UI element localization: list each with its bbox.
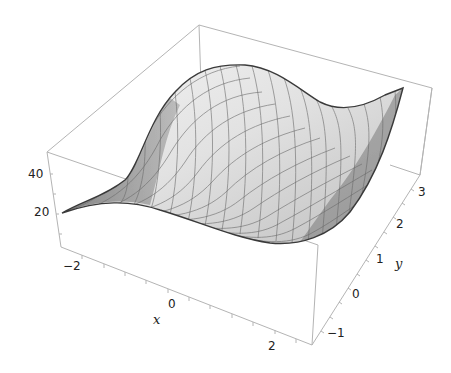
z-tick-label: 20 (34, 205, 49, 219)
y-tick-label: 3 (418, 185, 426, 199)
y-tick-label: 0 (352, 287, 360, 301)
x-tick-label: 0 (168, 297, 176, 311)
y-tick-label: 2 (396, 217, 404, 231)
y-axis-label: y (394, 256, 403, 271)
x-tick-label: −2 (63, 259, 81, 273)
surface-plot: 40 20 −2 0 2 x 3 2 1 0 −1 y (0, 0, 451, 373)
surface (55, 55, 415, 255)
x-axis-label: x (153, 312, 161, 327)
z-tick-label: 40 (28, 167, 43, 181)
x-tick-label: 2 (268, 339, 276, 353)
y-tick-label: 1 (376, 252, 384, 266)
y-tick-label: −1 (327, 326, 345, 340)
